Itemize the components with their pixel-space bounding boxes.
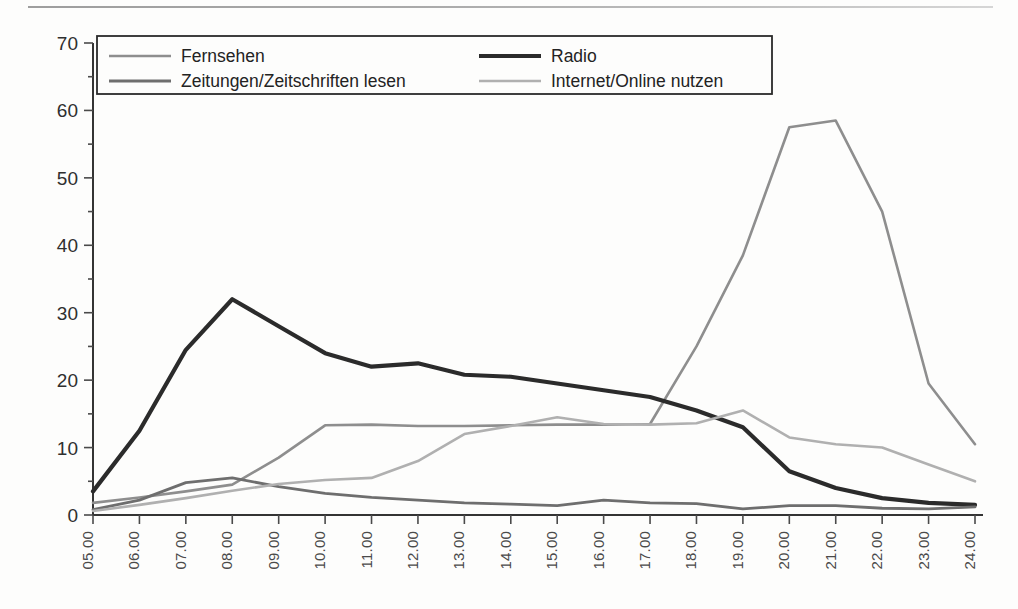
x-tick-label: 12.00 [404,531,421,570]
chart-legend[interactable]: FernsehenRadioZeitungen/Zeitschriften le… [97,36,772,94]
y-tick-label: 40 [57,235,78,256]
y-tick-label: 10 [57,438,78,459]
chart-svg: 010203040506070 05.0006.0007.0008.0009.0… [0,0,1018,609]
x-tick-label: 22.00 [868,531,885,570]
y-tick-label: 70 [57,33,78,54]
x-tick-label: 09.00 [265,531,282,570]
x-tick-label: 06.00 [125,531,142,570]
x-tick-label: 13.00 [450,531,467,570]
y-tick-label: 30 [57,303,78,324]
x-tick-label: 15.00 [543,531,560,570]
legend-label-3: Zeitungen/Zeitschriften lesen [181,71,406,91]
legend-label-1: Fernsehen [181,46,265,66]
x-tick-label: 16.00 [590,531,607,570]
x-tick-label: 11.00 [358,531,375,568]
series-lines [93,121,975,511]
y-axis: 010203040506070 [57,33,93,526]
legend-label-4: Internet/Online nutzen [551,71,723,91]
x-tick-label: 18.00 [682,531,699,570]
chart-page: 010203040506070 05.0006.0007.0008.0009.0… [0,0,1018,609]
legend-label-2: Radio [551,46,597,66]
y-tick-label: 20 [57,370,78,391]
x-tick-label: 10.00 [311,531,328,570]
x-tick-label: 19.00 [729,531,746,570]
x-tick-label: 21.00 [822,531,839,570]
y-tick-label: 0 [67,505,78,526]
x-tick-label: 07.00 [172,531,189,570]
x-tick-label: 23.00 [915,531,932,570]
series-line-radio [93,299,975,505]
x-tick-label: 05.00 [79,531,96,570]
line-chart: 010203040506070 05.0006.0007.0008.0009.0… [0,0,1018,609]
x-tick-label: 17.00 [636,531,653,570]
series-line-zeitungen-zeitschriften-lesen [93,478,975,510]
x-tick-label: 14.00 [497,531,514,570]
x-axis: 05.0006.0007.0008.0009.0010.0011.0012.00… [79,515,983,570]
x-tick-label: 20.00 [775,531,792,570]
y-tick-label: 50 [57,168,78,189]
x-tick-label: 08.00 [218,531,235,570]
x-tick-label: 24.00 [961,531,978,570]
y-tick-label: 60 [57,100,78,121]
